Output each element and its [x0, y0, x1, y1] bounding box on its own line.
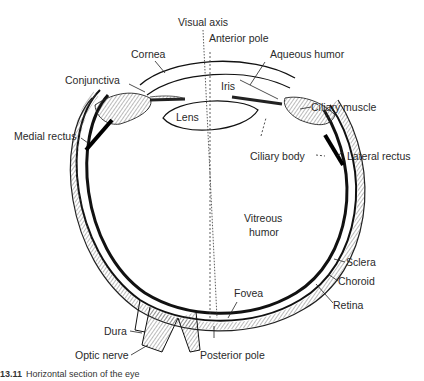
- label-ciliary-body: Ciliary body: [250, 150, 305, 162]
- label-vitreous-humor-line2: humor: [249, 226, 279, 238]
- label-visual-axis: Visual axis: [178, 16, 228, 28]
- ciliary-region-left: [95, 93, 151, 124]
- label-optic-nerve: Optic nerve: [75, 349, 129, 361]
- label-aqueous-humor: Aqueous humor: [270, 48, 344, 60]
- cornea: [140, 61, 295, 95]
- label-lateral-rectus: Lateral rectus: [347, 150, 411, 162]
- label-ciliary-muscle: Ciliary muscle: [311, 101, 376, 113]
- figure-number: 13.11: [0, 369, 22, 379]
- label-dura: Dura: [104, 325, 127, 337]
- label-lens: Lens: [176, 111, 199, 123]
- label-vitreous-humor-line1: Vitreous: [244, 212, 282, 224]
- label-cornea: Cornea: [131, 48, 165, 60]
- label-medial-rectus: Medial rectus: [14, 130, 76, 142]
- label-sclera: Sclera: [346, 256, 376, 268]
- figure-caption: 13.11Horizontal section of the eye: [0, 369, 140, 379]
- figure-caption-text: Horizontal section of the eye: [26, 369, 140, 379]
- label-fovea: Fovea: [234, 287, 263, 299]
- label-choroid: Choroid: [338, 275, 375, 287]
- label-iris: Iris: [221, 80, 235, 92]
- label-retina: Retina: [333, 299, 363, 311]
- label-posterior-pole: Posterior pole: [200, 349, 265, 361]
- label-conjunctiva: Conjunctiva: [65, 74, 120, 86]
- label-anterior-pole: Anterior pole: [209, 32, 269, 44]
